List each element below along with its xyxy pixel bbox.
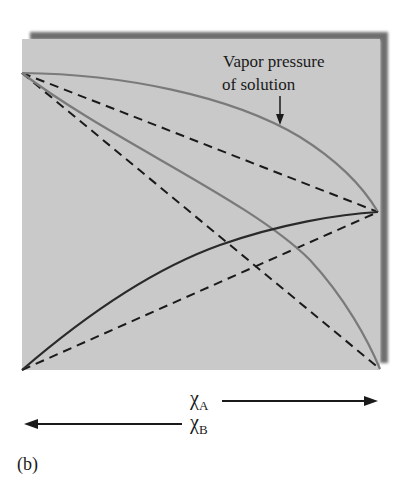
chi-b-label: χB [189,411,208,437]
panel-label: (b) [17,454,38,475]
annotation-line2: of solution [222,75,296,94]
arrow-right-icon [222,396,378,406]
arrow-left-icon [24,419,182,429]
plot-panel [22,39,380,370]
vapor-pressure-diagram: Vapor pressure of solution χA χB (b) [0,0,416,496]
annotation-line1: Vapor pressure [223,52,325,71]
chi-a-label: χA [189,387,209,413]
